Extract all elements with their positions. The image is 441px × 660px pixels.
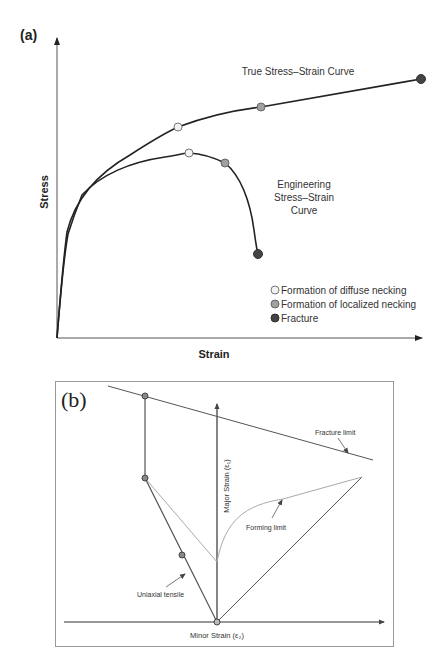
biaxial-strain-path	[217, 477, 362, 622]
legend-localized-icon	[271, 300, 279, 308]
forming-limit-label: Forming limit	[246, 524, 286, 532]
true-localized-necking-marker	[257, 103, 265, 111]
eng-fracture-marker	[254, 250, 263, 259]
minor-strain-label: Minor Strain (ε₂)	[190, 631, 244, 640]
panel-a: (a) Stress Strain True Stress–Strain Cur…	[20, 27, 426, 360]
fracture-marker	[142, 393, 148, 399]
panel-b-label: (b)	[61, 387, 87, 412]
uniaxial-marker	[179, 552, 185, 558]
eng-diffuse-necking-marker	[185, 149, 193, 157]
legend-fracture-label: Fracture	[281, 313, 319, 324]
uniaxial-tensile-label: Uniaxial tensile	[137, 591, 184, 598]
panel-b-frame	[56, 382, 394, 647]
panel-a-label: (a)	[20, 27, 37, 43]
x-axis-label: Strain	[198, 348, 229, 360]
forming-limit-marker	[142, 475, 148, 481]
origin-marker	[214, 619, 220, 625]
eng-curve-label-3: Curve	[291, 205, 318, 216]
legend-fracture-icon	[271, 314, 279, 322]
y-axis-label: Stress	[38, 175, 50, 209]
true-curve-label: True Stress–Strain Curve	[242, 66, 355, 77]
eng-curve-label-2: Stress–Strain	[274, 192, 334, 203]
fracture-limit-label: Fracture limit	[315, 429, 356, 436]
legend: Formation of diffuse necking Formation o…	[271, 285, 416, 324]
uniaxial-tensile-pointer	[166, 574, 185, 587]
panel-b: (b) Major Strain (ε₁) Minor Strain (ε₂) …	[56, 382, 394, 647]
true-fracture-marker	[417, 75, 426, 84]
eng-curve-label-1: Engineering	[277, 179, 330, 190]
major-strain-label: Major Strain (ε₁)	[222, 459, 231, 513]
true-diffuse-necking-marker	[174, 123, 182, 131]
eng-localized-necking-marker	[221, 159, 229, 167]
legend-localized-label: Formation of localized necking	[281, 299, 416, 310]
engineering-stress-strain-curve	[57, 153, 258, 338]
figure: (a) Stress Strain True Stress–Strain Cur…	[0, 0, 441, 660]
forming-limit-pointer	[272, 500, 282, 518]
legend-diffuse-label: Formation of diffuse necking	[281, 285, 406, 296]
legend-diffuse-icon	[271, 286, 279, 294]
forming-limit-curve	[145, 477, 362, 562]
